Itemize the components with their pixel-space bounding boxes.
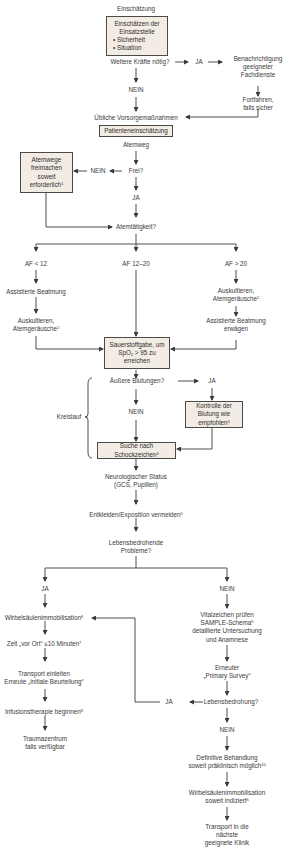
clear-airway-line-4: erforderlich1 (30, 181, 64, 189)
footnote-4: 4 (157, 451, 159, 456)
branch-low-label: AF < 12 (25, 260, 47, 268)
low-auscultate-line-1: Auskultieren, (13, 317, 59, 325)
footnote-8: 8 (81, 708, 83, 713)
high-auscultate: Auskultieren, Atemgeräusche2 (213, 287, 259, 303)
oxygen-line-1: Sauerstoffgabe, um (110, 341, 165, 349)
high-consider-ventilation: Assistierte Beatmung erwägen (206, 317, 266, 333)
trauma-assessment-flowchart: Einschätzung Einschätzen der Einsatzstel… (0, 0, 294, 850)
vitals-line-2: SAMPLE-Schema9 (192, 619, 262, 627)
clear-airway-line-2: freimachen (31, 164, 62, 172)
high-consider-line-2: erwägen (206, 325, 266, 333)
clinic-line-2: nächste (205, 831, 249, 839)
bleeding-control-line-1: Kontrolle der (196, 402, 232, 410)
infusion-therapy: Infusionstherapie beginnen8 (5, 708, 83, 716)
bleeding-control-line-2: Blutung wie (198, 410, 231, 418)
time-on-scene: Zeit „vor Ort“ ≤10 Minuten7 (7, 640, 81, 648)
primary-survey-line-2: „Primary Survey“ (203, 672, 250, 680)
transport-line-1: Transport einleiten (4, 670, 83, 678)
bleeding-no: NEIN (128, 408, 143, 416)
scene-bullet-safety: • Sicherheit (107, 36, 145, 44)
right-path-no: NEIN (219, 585, 234, 593)
vitals-line-1: Vitalzeichen prüfen (192, 611, 262, 619)
notify-line-1: Benachrichtigung (234, 55, 283, 63)
high-auscultate-text: Atemgeräusche (213, 295, 257, 302)
trauma-line-2: falls verfügbar (23, 743, 67, 751)
neuro-line-1: Neurologischer Status (105, 473, 167, 481)
right-spine-line-2: soweit indiziert6 (189, 797, 265, 805)
definitive-line-1: Definitive Behandlung (188, 754, 265, 762)
scene-bullet-situation: • Situation (107, 44, 141, 52)
primary-survey-line-1: Erneuter (203, 664, 250, 672)
primary-survey-repeat: Erneuter „Primary Survey“ (203, 664, 250, 680)
continue-if-safe: Fortfahren, falls sicher (243, 96, 274, 112)
bleeding-yes: JA (208, 377, 215, 385)
footnote-7: 7 (79, 640, 81, 645)
initiate-transport: Transport einleiten Erneute „initiale Be… (4, 670, 83, 686)
clear-airway-line-3: soweit (38, 173, 56, 181)
threat-yes: JA (165, 698, 172, 706)
patient-assessment-box: Patienteneinschätzung (99, 125, 173, 137)
high-consider-line-1: Assistierte Beatmung (206, 317, 266, 325)
definitive-text: soweit präklinisch möglich (188, 762, 261, 769)
shock-text: Schockzeichen (114, 451, 156, 458)
notify-services: Benachrichtigung geeigneter Fachdienste (234, 55, 283, 80)
clear-airway-box: Atemwege freimachen soweit erforderlich1 (20, 152, 73, 193)
sample-text: SAMPLE-Schema (201, 619, 252, 626)
exposure-step: Entkleiden/Exposition vermeiden5 (89, 511, 183, 519)
oxygen-line-3: erreichen (124, 357, 150, 365)
footnote-5: 5 (181, 511, 183, 516)
definitive-line-2: soweit präklinisch möglich10 (188, 762, 265, 770)
definitive-treatment: Definitive Behandlung soweit präklinisch… (188, 754, 265, 770)
transport-to-clinic: Transport in die nächste geeignete Klini… (205, 823, 249, 848)
branch-high-label: AF > 20 (225, 260, 247, 268)
bleeding-control-text: empfohlen (198, 419, 227, 426)
vital-signs-check: Vitalzeichen prüfen SAMPLE-Schema9 detai… (192, 611, 262, 644)
high-auscultate-line-2: Atemgeräusche2 (213, 295, 259, 303)
life-threat-line-2: Probleme? (109, 547, 163, 555)
spo-text: SpO (118, 349, 131, 356)
clinic-line-3: geeignete Klinik (205, 839, 249, 847)
shock-line-2: Schockzeichen4 (114, 451, 159, 459)
threat-question: Lebensbedrohung? (204, 698, 258, 706)
neuro-line-2: (GCS, Pupillen) (105, 481, 167, 489)
low-auscultate-line-2: Atemgeräusche2 (13, 325, 59, 333)
branch-normal-label: AF 12–20 (122, 260, 149, 268)
trauma-center: Traumazentrum falls verfügbar (23, 735, 67, 751)
flowchart-title: Einschätzung (117, 5, 155, 13)
airway-label: Atemweg (123, 141, 149, 149)
neuro-status: Neurologischer Status (GCS, Pupillen) (105, 473, 167, 489)
life-threat-line-1: Lebensbedrohende (109, 539, 163, 547)
more-forces-no: NEIN (128, 86, 143, 94)
breathing-question: Atemtätigkeit? (116, 223, 156, 231)
clear-airway-text: erforderlich (30, 181, 62, 188)
vitals-line-4: und Anamnese (192, 636, 262, 644)
exposure-text: Entkleiden/Exposition vermeiden (89, 511, 180, 518)
airway-question: Frei? (129, 167, 143, 175)
scene-box-heading2: Einsatzstelle (119, 28, 154, 36)
infusion-text: Infusionstherapie beginnen (5, 708, 81, 715)
circulation-label: Kreislauf (57, 413, 82, 421)
spine-immobilisation: Wirbelsäulenimmobilisation6 (5, 614, 84, 622)
notify-line-2: geeigneter (234, 63, 283, 71)
threat-no: NEIN (219, 726, 234, 734)
low-auscultate-text: Atemgeräusche (13, 325, 57, 332)
continue-line-1: Fortfahren, (243, 96, 274, 104)
bleeding-control-box: Kontrolle der Blutung wie empfohlen3 (185, 401, 243, 428)
footnote-6: 6 (81, 614, 83, 619)
right-spine-line-1: Wirbelsäulenimmobilisation (189, 789, 265, 797)
scene-box-heading: Einschätzen der (114, 20, 159, 28)
notify-line-3: Fachdienste (234, 71, 283, 79)
footnote-2: 2 (57, 325, 59, 330)
spo-target: > 95 zu (133, 349, 156, 356)
shock-signs-box: Suche nach Schockzeichen4 (97, 442, 176, 459)
life-threat-question: Lebensbedrohende Probleme? (109, 539, 163, 555)
transport-line-2: Erneute „initiale Beurteilung“ (4, 678, 83, 686)
oxygen-line-2: SpO2 > 95 zu (118, 349, 155, 357)
footnote-3: 3 (228, 419, 230, 424)
right-spine-immobilisation: Wirbelsäulenimmobilisation soweit indizi… (189, 789, 265, 805)
high-auscultate-line-1: Auskultieren, (213, 287, 259, 295)
vitals-line-3: detaillierte Untersuchung (192, 627, 262, 635)
trauma-line-1: Traumazentrum (23, 735, 67, 743)
low-auscultate: Auskultieren, Atemgeräusche2 (13, 317, 59, 333)
more-forces-question: Weitere Kräfte nötig? (110, 58, 169, 66)
